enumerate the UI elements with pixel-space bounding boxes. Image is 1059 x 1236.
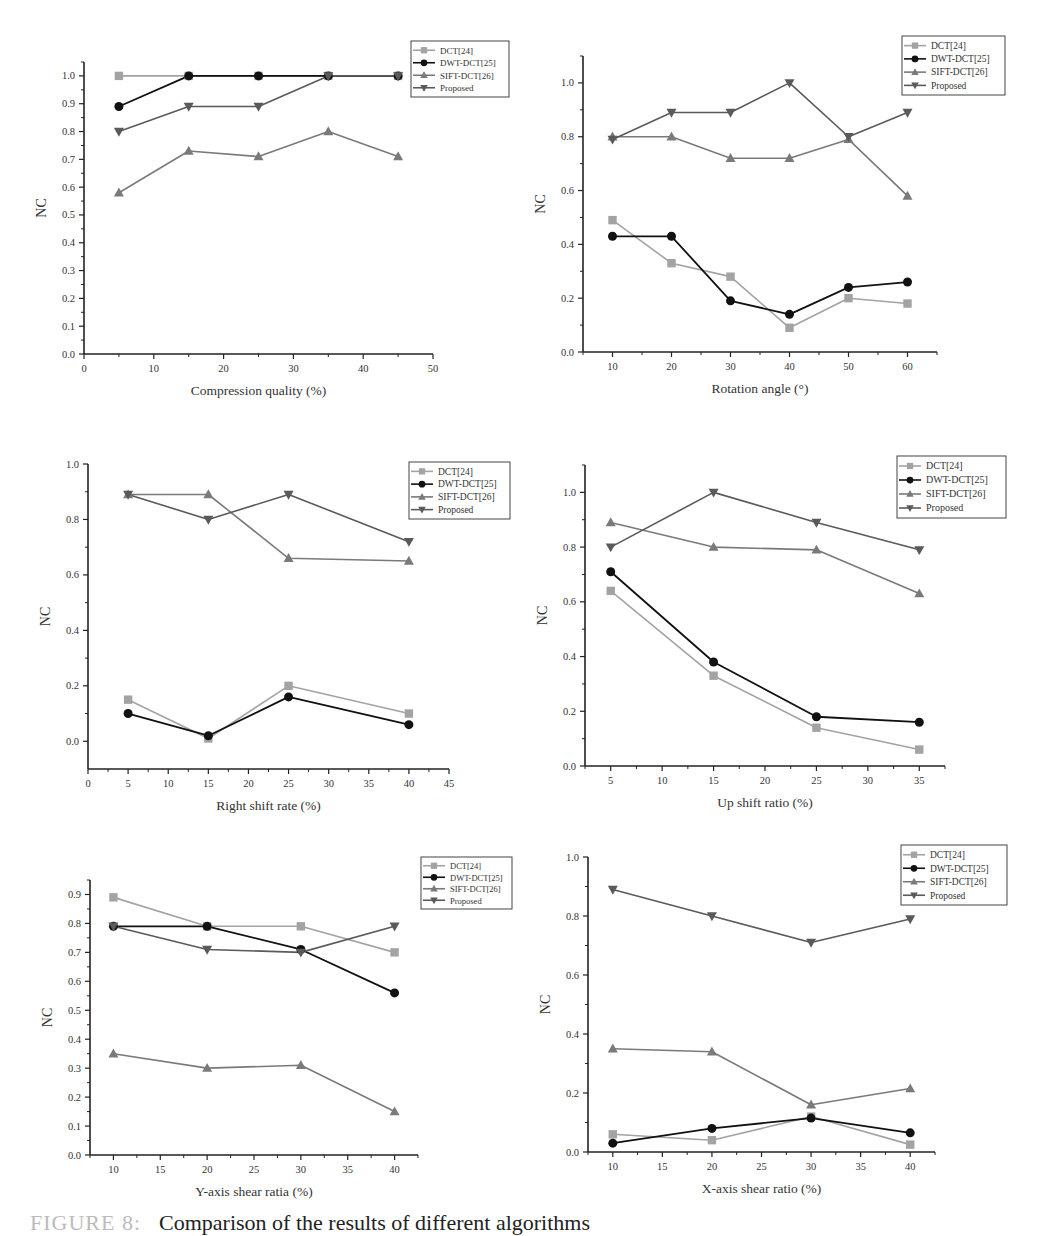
- y-tick-label: 0.2: [62, 293, 75, 304]
- x-tick-label: 25: [756, 1161, 767, 1172]
- data-point: [115, 72, 123, 80]
- legend-marker: [419, 481, 426, 488]
- data-point: [114, 188, 124, 197]
- x-tick-label: 40: [389, 1164, 400, 1175]
- data-point: [114, 128, 124, 137]
- legend-label: DCT[24]: [926, 460, 963, 471]
- legend-label: SIFT-DCT[26]: [931, 67, 988, 77]
- data-point: [284, 553, 294, 562]
- data-point: [609, 1130, 617, 1138]
- x-tick-label: 30: [863, 775, 874, 786]
- x-axis-label: Y-axis shear ratia (%): [195, 1184, 312, 1199]
- y-tick-label: 0.0: [563, 761, 576, 772]
- legend-label: SIFT-DCT[26]: [438, 492, 495, 502]
- legend: DCT[24]DWT-DCT[25]SIFT-DCT[26]Proposed: [421, 857, 512, 909]
- x-tick-label: 20: [218, 363, 229, 374]
- legend-label: DWT-DCT[25]: [926, 474, 988, 485]
- y-tick-label: 0.8: [561, 131, 574, 142]
- y-tick-label: 0.9: [62, 98, 75, 109]
- x-tick-label: 15: [155, 1164, 166, 1175]
- data-point: [124, 709, 133, 718]
- x-tick-label: 20: [202, 1164, 213, 1175]
- legend-marker: [421, 47, 427, 53]
- data-point: [607, 587, 615, 595]
- y-tick-label: 0.0: [62, 349, 75, 360]
- legend-marker-icon: [907, 463, 913, 469]
- series-line-proposed: [613, 83, 908, 140]
- x-tick-label: 30: [323, 778, 334, 789]
- legend-label: DCT[24]: [930, 850, 965, 860]
- series-line-proposed: [611, 492, 920, 549]
- x-tick-label: 30: [806, 1161, 817, 1172]
- x-tick-label: 50: [428, 363, 439, 374]
- y-tick-label: 0.6: [68, 976, 81, 987]
- data-point: [203, 516, 213, 525]
- y-tick-label: 0.0: [566, 1147, 579, 1158]
- x-tick-label: 60: [902, 361, 913, 372]
- data-point: [608, 232, 617, 241]
- legend-marker: [421, 59, 428, 66]
- data-point: [390, 1106, 400, 1115]
- legend-marker-icon: [431, 863, 437, 869]
- data-point: [726, 272, 734, 280]
- x-tick-label: 30: [725, 361, 736, 372]
- x-axis-label: Compression quality (%): [191, 383, 327, 398]
- x-tick-label: 25: [811, 775, 822, 786]
- y-tick-label: 0.4: [62, 237, 76, 248]
- data-point: [915, 745, 923, 753]
- data-point: [905, 1083, 915, 1092]
- x-tick-label: 5: [125, 778, 130, 789]
- legend-label: Proposed: [438, 505, 474, 515]
- data-point: [844, 283, 853, 292]
- legend-marker-icon: [431, 874, 438, 881]
- y-tick-label: 0.4: [561, 239, 575, 250]
- data-point: [606, 543, 616, 552]
- data-point: [707, 1124, 716, 1133]
- x-tick-label: 30: [288, 363, 299, 374]
- data-point: [404, 538, 414, 547]
- series-line-sift-dct-26: [128, 495, 409, 562]
- series-line-dct-24: [611, 591, 920, 750]
- x-tick-label: 10: [108, 1164, 119, 1175]
- y-tick-label: 0.6: [566, 970, 579, 981]
- y-tick-label: 0.4: [68, 1034, 82, 1045]
- legend-label: DCT[24]: [440, 46, 473, 56]
- legend: DCT[24]DWT-DCT[25]SIFT-DCT[26]Proposed: [411, 41, 509, 97]
- data-point: [108, 1048, 118, 1057]
- series-line-sift-dct-26: [611, 522, 920, 593]
- data-point: [812, 723, 820, 731]
- data-point: [606, 567, 615, 576]
- series-line-dwt-dct-25: [128, 697, 409, 736]
- data-point: [296, 949, 306, 958]
- legend-label: DWT-DCT[25]: [931, 54, 990, 64]
- x-tick-label: 35: [364, 778, 375, 789]
- data-point: [726, 296, 735, 305]
- legend-marker: [912, 42, 918, 48]
- x-tick-label: 15: [708, 775, 719, 786]
- x-tick-label: 0: [85, 778, 90, 789]
- y-tick-label: 0.4: [563, 651, 577, 662]
- data-point: [124, 695, 132, 703]
- data-point: [114, 102, 123, 111]
- y-tick-label: 0.8: [563, 542, 576, 553]
- y-tick-label: 0.0: [66, 736, 79, 747]
- y-tick-label: 0.2: [566, 1088, 579, 1099]
- series-line-sift-dct-26: [119, 132, 398, 193]
- data-point: [404, 720, 413, 729]
- y-tick-label: 0.0: [561, 347, 574, 358]
- y-tick-label: 0.1: [62, 321, 75, 332]
- y-tick-label: 0.8: [566, 911, 579, 922]
- data-point: [204, 731, 213, 740]
- legend-marker: [431, 874, 438, 881]
- series-line-sift-dct-26: [113, 1054, 394, 1112]
- x-tick-label: 45: [444, 778, 455, 789]
- x-tick-label: 40: [784, 361, 795, 372]
- y-tick-label: 0.8: [62, 126, 75, 137]
- legend: DCT[24]DWT-DCT[25]SIFT-DCT[26]Proposed: [902, 36, 1005, 95]
- y-tick-label: 1.0: [561, 77, 574, 88]
- series-line-sift-dct-26: [613, 137, 908, 196]
- legend-label: DWT-DCT[25]: [440, 58, 496, 68]
- x-tick-label: 15: [203, 778, 214, 789]
- x-tick-label: 20: [707, 1161, 718, 1172]
- data-point: [323, 126, 333, 135]
